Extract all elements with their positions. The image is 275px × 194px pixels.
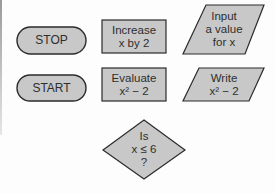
stop-label: STOP [17, 27, 86, 54]
increase-label-line-1: Increase [112, 24, 156, 37]
evaluate-label-line-2: x² − 2 [119, 85, 148, 98]
start-label: START [17, 75, 86, 101]
flowchart-canvas: STOP Increase x by 2 Input a value for x… [0, 0, 275, 194]
write-label: Write x² − 2 [193, 68, 255, 101]
decision-label-line-3: ? [141, 156, 147, 169]
stop-label-line-1: STOP [35, 34, 67, 47]
evaluate-label: Evaluate x² − 2 [102, 68, 166, 101]
decision-label: Is x ≤ 6 ? [114, 127, 174, 172]
input-label-line-1: Input [211, 10, 237, 23]
input-label: Input a value for x [196, 6, 252, 53]
decision-label-line-1: Is [140, 130, 149, 143]
start-label-line-1: START [32, 82, 70, 95]
input-label-line-2: a value [205, 23, 242, 36]
decision-label-line-2: x ≤ 6 [132, 143, 157, 156]
write-label-line-1: Write [211, 72, 238, 85]
increase-label: Increase x by 2 [102, 20, 166, 53]
increase-label-line-2: x by 2 [119, 37, 150, 50]
input-label-line-3: for x [213, 36, 235, 49]
evaluate-label-line-1: Evaluate [112, 72, 157, 85]
write-label-line-2: x² − 2 [209, 85, 238, 98]
